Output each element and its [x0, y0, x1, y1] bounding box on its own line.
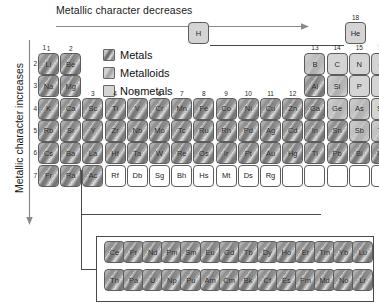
- element-cell-al[interactable]: Al: [304, 75, 325, 97]
- element-cell-as[interactable]: As: [349, 98, 370, 120]
- element-cell-empty[interactable]: [282, 165, 303, 187]
- element-cell-o[interactable]: O: [371, 53, 379, 75]
- element-cell-ce[interactable]: Ce: [104, 241, 125, 263]
- element-cell-au[interactable]: Au: [260, 142, 281, 164]
- element-cell-no[interactable]: No: [333, 269, 354, 291]
- element-cell-si[interactable]: Si: [327, 75, 348, 97]
- element-cell-os[interactable]: Os: [193, 142, 214, 164]
- element-cell-sr[interactable]: Sr: [60, 120, 81, 142]
- element-cell-c[interactable]: C: [327, 53, 348, 75]
- element-cell-empty[interactable]: [349, 165, 370, 187]
- element-cell-ir[interactable]: Ir: [216, 142, 237, 164]
- element-cell-ra[interactable]: Ra: [60, 165, 81, 187]
- element-cell-gd[interactable]: Gd: [219, 241, 240, 263]
- element-cell-lr[interactable]: Lr: [352, 269, 373, 291]
- element-cell-ti[interactable]: Ti: [105, 98, 126, 120]
- element-cell-cd[interactable]: Cd: [282, 120, 303, 142]
- element-cell-p[interactable]: P: [349, 75, 370, 97]
- element-cell-es[interactable]: Es: [276, 269, 297, 291]
- element-cell-po[interactable]: Po: [371, 142, 379, 164]
- element-cell-pd[interactable]: Pd: [238, 120, 259, 142]
- element-cell-he[interactable]: He: [345, 22, 366, 44]
- element-cell-bh[interactable]: Bh: [171, 165, 192, 187]
- element-cell-eu[interactable]: Eu: [200, 241, 221, 263]
- element-cell-empty[interactable]: [327, 165, 348, 187]
- element-cell-tc[interactable]: Tc: [171, 120, 192, 142]
- element-cell-ca[interactable]: Ca: [60, 98, 81, 120]
- element-cell-la[interactable]: La: [82, 142, 103, 164]
- element-cell-b[interactable]: B: [304, 53, 325, 75]
- element-cell-ho[interactable]: Ho: [276, 241, 297, 263]
- element-cell-re[interactable]: Re: [171, 142, 192, 164]
- element-cell-rg[interactable]: Rg: [260, 165, 281, 187]
- element-cell-yb[interactable]: Yb: [333, 241, 354, 263]
- element-cell-s[interactable]: S: [371, 75, 379, 97]
- element-cell-ni[interactable]: Ni: [238, 98, 259, 120]
- element-cell-hs[interactable]: Hs: [193, 165, 214, 187]
- element-cell-am[interactable]: Am: [200, 269, 221, 291]
- element-cell-ga[interactable]: Ga: [304, 98, 325, 120]
- element-cell-sc[interactable]: Sc: [82, 98, 103, 120]
- element-cell-pr[interactable]: Pr: [123, 241, 144, 263]
- element-cell-fe[interactable]: Fe: [193, 98, 214, 120]
- element-cell-sb[interactable]: Sb: [349, 120, 370, 142]
- element-cell-mn[interactable]: Mn: [171, 98, 192, 120]
- element-cell-rf[interactable]: Rf: [105, 165, 126, 187]
- element-cell-pu[interactable]: Pu: [180, 269, 201, 291]
- element-cell-empty[interactable]: [304, 165, 325, 187]
- element-cell-ta[interactable]: Ta: [127, 142, 148, 164]
- element-cell-cf[interactable]: Cf: [257, 269, 278, 291]
- element-cell-tm[interactable]: Tm: [314, 241, 335, 263]
- element-cell-hf[interactable]: Hf: [105, 142, 126, 164]
- element-cell-mt[interactable]: Mt: [216, 165, 237, 187]
- element-cell-tb[interactable]: Tb: [238, 241, 259, 263]
- element-cell-sm[interactable]: Sm: [180, 241, 201, 263]
- element-cell-u[interactable]: U: [142, 269, 163, 291]
- element-cell-nb[interactable]: Nb: [127, 120, 148, 142]
- element-cell-co[interactable]: Co: [216, 98, 237, 120]
- element-cell-n[interactable]: N: [349, 53, 370, 75]
- element-cell-ba[interactable]: Ba: [60, 142, 81, 164]
- element-cell-te[interactable]: Te: [371, 120, 379, 142]
- element-cell-se[interactable]: Se: [371, 98, 379, 120]
- element-cell-li[interactable]: Li: [38, 53, 59, 75]
- element-cell-pt[interactable]: Pt: [238, 142, 259, 164]
- element-cell-bi[interactable]: Bi: [349, 142, 370, 164]
- element-cell-rb[interactable]: Rb: [38, 120, 59, 142]
- element-cell-sg[interactable]: Sg: [149, 165, 170, 187]
- element-cell-zr[interactable]: Zr: [105, 120, 126, 142]
- element-cell-lu[interactable]: Lu: [352, 241, 373, 263]
- element-cell-fm[interactable]: Fm: [295, 269, 316, 291]
- element-cell-ac[interactable]: Ac: [82, 165, 103, 187]
- element-cell-ag[interactable]: Ag: [260, 120, 281, 142]
- element-cell-be[interactable]: Be: [60, 53, 81, 75]
- element-cell-ds[interactable]: Ds: [238, 165, 259, 187]
- element-cell-cu[interactable]: Cu: [260, 98, 281, 120]
- element-cell-in[interactable]: In: [304, 120, 325, 142]
- element-cell-md[interactable]: Md: [314, 269, 335, 291]
- element-cell-y[interactable]: Y: [82, 120, 103, 142]
- element-cell-nd[interactable]: Nd: [142, 241, 163, 263]
- element-cell-zn[interactable]: Zn: [282, 98, 303, 120]
- element-cell-np[interactable]: Np: [161, 269, 182, 291]
- element-cell-sn[interactable]: Sn: [327, 120, 348, 142]
- element-cell-cr[interactable]: Cr: [149, 98, 170, 120]
- element-cell-h[interactable]: H: [188, 22, 209, 44]
- element-cell-cs[interactable]: Cs: [38, 142, 59, 164]
- element-cell-na[interactable]: Na: [38, 75, 59, 97]
- element-cell-ge[interactable]: Ge: [327, 98, 348, 120]
- element-cell-tl[interactable]: Tl: [304, 142, 325, 164]
- element-cell-dy[interactable]: Dy: [257, 241, 278, 263]
- element-cell-mo[interactable]: Mo: [149, 120, 170, 142]
- element-cell-hg[interactable]: Hg: [282, 142, 303, 164]
- element-cell-mg[interactable]: Mg: [60, 75, 81, 97]
- element-cell-pb[interactable]: Pb: [327, 142, 348, 164]
- element-cell-pm[interactable]: Pm: [161, 241, 182, 263]
- element-cell-pa[interactable]: Pa: [123, 269, 144, 291]
- element-cell-cm[interactable]: Cm: [219, 269, 240, 291]
- element-cell-empty[interactable]: [371, 165, 379, 187]
- element-cell-er[interactable]: Er: [295, 241, 316, 263]
- element-cell-fr[interactable]: Fr: [38, 165, 59, 187]
- element-cell-bk[interactable]: Bk: [238, 269, 259, 291]
- element-cell-db[interactable]: Db: [127, 165, 148, 187]
